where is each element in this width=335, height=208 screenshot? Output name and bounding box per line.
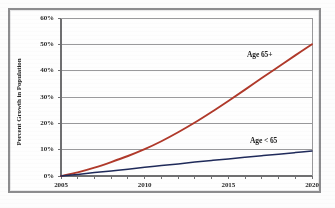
x-tick-label: 2015 [213, 182, 243, 189]
data-series-paths [61, 44, 312, 176]
y-tick-label: 20% [28, 120, 54, 127]
series-line-age-65 [61, 151, 312, 176]
series-annotation-age-under-65: Age < 65 [250, 136, 277, 145]
y-tick-label: 40% [28, 67, 54, 74]
y-axis-title: Percent Growth in Population [15, 38, 23, 166]
y-tick-label: 0% [28, 173, 54, 180]
series-line-age-65 [61, 44, 312, 176]
y-tick-label: 10% [28, 146, 54, 153]
y-tick-label: 30% [28, 94, 54, 101]
y-tick-label: 50% [28, 41, 54, 48]
x-tick-label: 2010 [130, 182, 160, 189]
chart-figure: 0%10%20%30%40%50%60% 2005201020152020 Pe… [0, 0, 335, 208]
gridlines [61, 18, 312, 150]
series-annotation-age-65-plus: Age 65+ [247, 50, 272, 59]
x-tick-label: 2020 [297, 182, 327, 189]
x-tick-label: 2005 [46, 182, 76, 189]
y-tick-label: 60% [28, 15, 54, 22]
